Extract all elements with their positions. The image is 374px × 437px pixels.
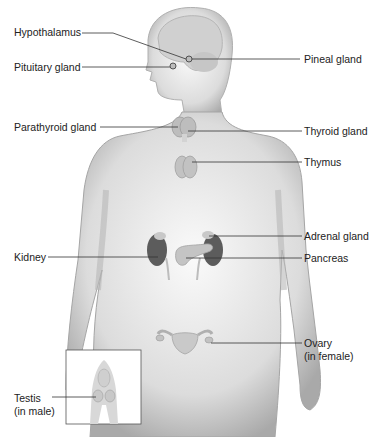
label-pineal-gland: Pineal gland [304, 53, 362, 66]
pineal-marker [186, 56, 192, 62]
label-hypothalamus: Hypothalamus [14, 26, 81, 39]
label-testis-sub: (in male) [14, 405, 55, 418]
label-ovary: Ovary [304, 337, 332, 350]
pituitary-marker [170, 63, 176, 69]
endocrine-diagram: Hypothalamus Pituitary gland Parathyroid… [0, 0, 374, 437]
thymus-organ [175, 156, 197, 178]
label-adrenal-gland: Adrenal gland [304, 230, 369, 243]
label-thymus: Thymus [304, 156, 341, 169]
label-pancreas: Pancreas [304, 252, 348, 265]
label-parathyroid-gland: Parathyroid gland [14, 121, 96, 134]
label-ovary-sub: (in female) [304, 350, 354, 363]
label-testis: Testis [14, 392, 41, 405]
label-thyroid-gland: Thyroid gland [304, 125, 368, 138]
label-pituitary-gland: Pituitary gland [14, 61, 81, 74]
male-inset [66, 350, 141, 424]
label-kidney: Kidney [14, 251, 46, 264]
